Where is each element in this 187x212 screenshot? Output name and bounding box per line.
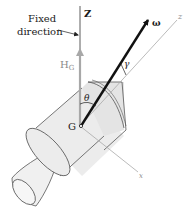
x-axis-label: x (139, 172, 143, 180)
omega-label: ω (152, 18, 161, 28)
fixed-direction-label-line1: Fixed (28, 13, 57, 24)
theta-label: θ (84, 93, 90, 103)
z-axis-label: z (177, 12, 183, 21)
Z-axis-label: Z (84, 8, 91, 19)
gamma-label: γ (124, 59, 130, 69)
rigid-body-diagram: Z Fixed direction HG z x ω γ θ G (0, 0, 187, 212)
fixed-direction-label-line2: direction (17, 26, 63, 37)
mass-center-G (79, 124, 82, 127)
G-label: G (68, 121, 76, 132)
z-axis-line (80, 20, 177, 126)
H-G-label: HG (60, 59, 75, 72)
